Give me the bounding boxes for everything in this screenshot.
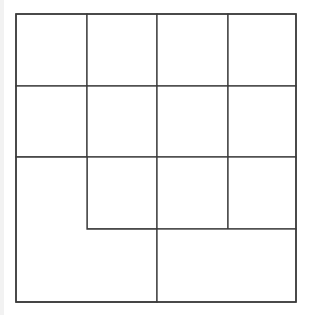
- grid-cell-r2c4: [228, 86, 296, 157]
- merged-region-rect-bottom-right: [157, 229, 296, 302]
- grid-canvas: [0, 0, 310, 315]
- grid-diagram: [0, 0, 310, 315]
- grid-cell-r2c3: [157, 86, 228, 157]
- grid-cell-r2c2: [87, 86, 157, 157]
- grid-cell-r3c3: [157, 157, 228, 229]
- grid-cell-r1c4: [228, 14, 296, 86]
- grid-cell-r3c2: [87, 157, 157, 229]
- grid-cell-r1c1: [16, 14, 87, 86]
- grid-cell-r2c1: [16, 86, 87, 157]
- grid-cell-r1c3: [157, 14, 228, 86]
- grid-cell-r1c2: [87, 14, 157, 86]
- grid-cell-r3c4: [228, 157, 296, 229]
